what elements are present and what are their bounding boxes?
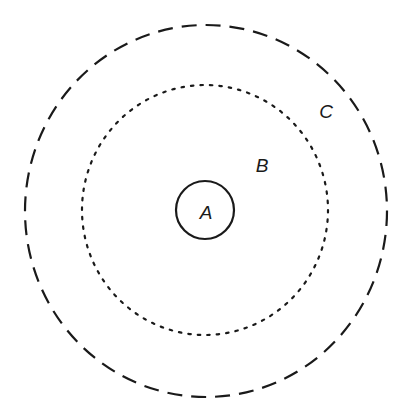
label-b: B	[256, 155, 269, 176]
label-c: C	[319, 101, 333, 122]
concentric-circles-diagram: A B C	[0, 0, 408, 413]
label-a: A	[199, 202, 213, 223]
diagram-svg: A B C	[0, 0, 408, 413]
